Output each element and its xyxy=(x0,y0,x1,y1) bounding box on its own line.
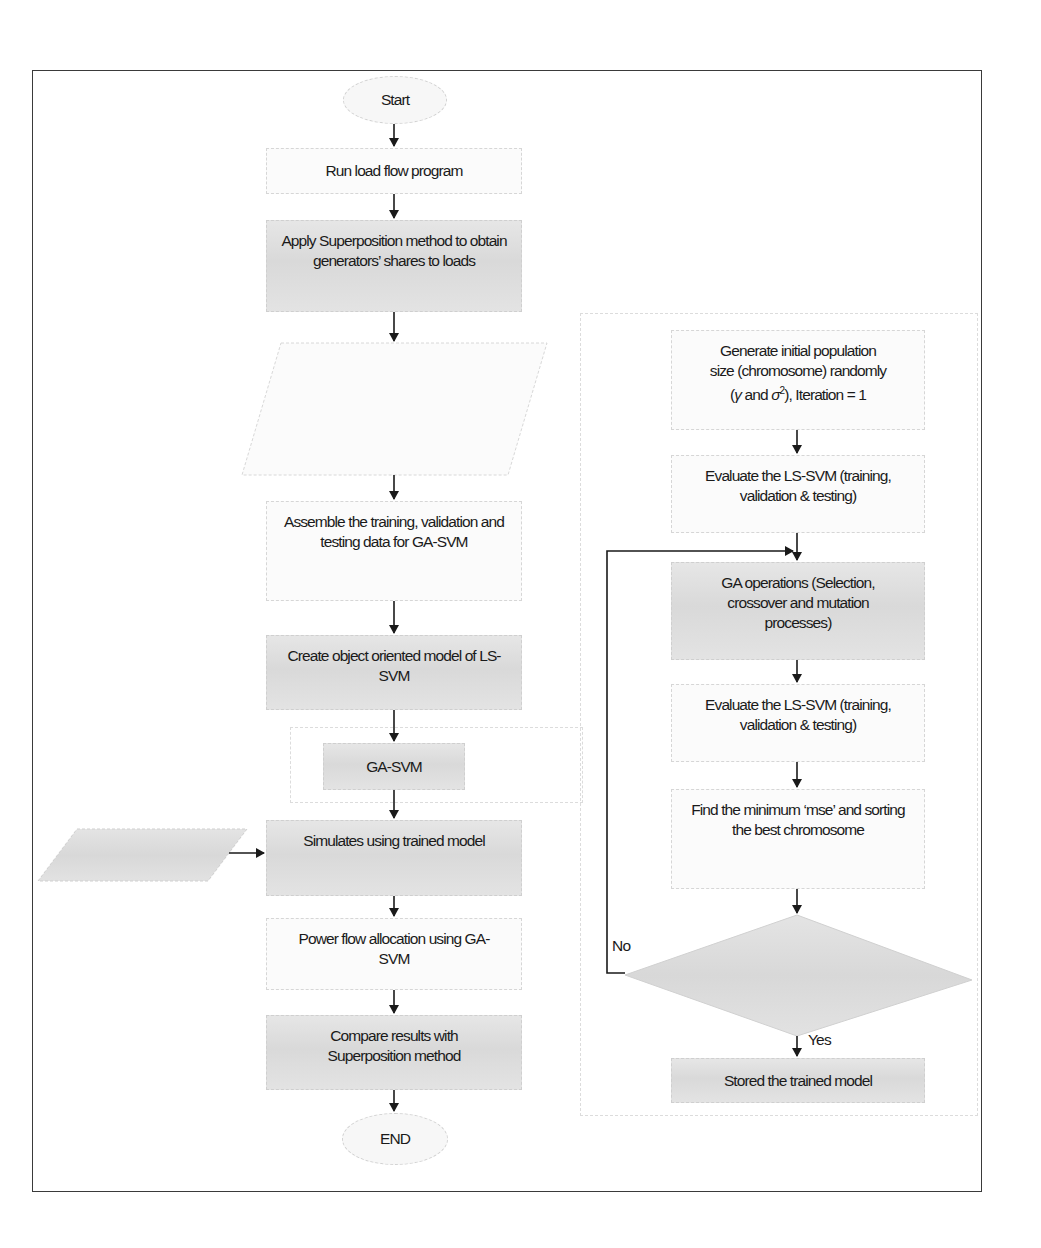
construct-input-parallelogram xyxy=(242,343,547,475)
connectors-overlay xyxy=(0,0,1041,1248)
decision-diamond xyxy=(625,915,972,1036)
no-loop-connector xyxy=(607,551,793,973)
new-input-parallelogram xyxy=(38,829,247,881)
